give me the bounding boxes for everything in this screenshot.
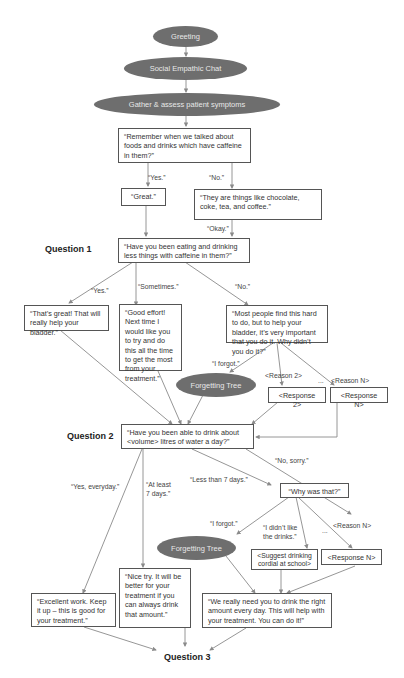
edge-label-ellipsis: ...: [318, 377, 324, 386]
gather-assess-symptoms-oval: Gather & assess patient symptoms: [94, 93, 280, 116]
edge-label-okay: “Okay.”: [207, 225, 229, 234]
edge-label-reason-2: <Reason 2>: [265, 372, 302, 381]
edge-label-ellipsis: ...: [322, 527, 328, 536]
great-box: “Great.”: [121, 188, 166, 206]
edge-label-at-least-7-days: “At least 7 days.”: [146, 481, 176, 498]
edge-label-less-than-7-days: “Less than 7 days.”: [190, 476, 248, 485]
edge-label-yes: “Yes.”: [148, 174, 166, 183]
thats-great-box: “That’s great! That will really help you…: [24, 305, 109, 331]
we-really-need-you-box: “We really need you to drink the right a…: [202, 593, 332, 628]
suggest-cordial-box: <Suggest drinking cordial at school>: [251, 549, 318, 570]
question-1-label: Question 1: [45, 244, 92, 254]
edge-label-i-forgot: “I forgot.”: [210, 520, 238, 529]
response-2-box: <Response 2>: [268, 387, 326, 403]
edge-label-reason-n: <Reason N>: [333, 522, 371, 531]
greeting-oval: Greeting: [153, 26, 218, 47]
edge-label-no: “No.”: [235, 283, 250, 292]
question-3-label: Question 3: [164, 652, 211, 662]
edge-label-reason-n: <Reason N>: [331, 377, 369, 386]
excellent-work-box: “Excellent work. Keep it up – this is go…: [31, 593, 116, 627]
response-n-box: <Response N>: [321, 549, 382, 565]
question-2-box: “Have you been able to drink about <volu…: [121, 424, 254, 449]
question-2-label: Question 2: [67, 431, 114, 441]
edge-label-sometimes: “Sometimes.”: [138, 283, 178, 292]
response-n-box: <Response N>: [330, 387, 388, 403]
edge-label-no: “No.”: [209, 174, 224, 183]
edge-label-yes: “Yes.”: [91, 287, 109, 296]
social-empathic-chat-oval: Social Empathic Chat: [124, 57, 247, 80]
why-was-that-box: “Why was that?”: [280, 483, 349, 498]
good-effort-box: “Good effort! Next time I would like you…: [119, 304, 182, 371]
most-people-box: “Most people find this hard to do, but t…: [226, 305, 328, 343]
edge-label-yes-everyday: “Yes, everyday.”: [71, 483, 119, 492]
question-1-box: “Have you been eating and drinking less …: [118, 238, 250, 263]
forgetting-tree-oval: Forgetting Tree: [157, 536, 236, 560]
edge-label-didnt-like-drinks: “I didn’t like the drinks.”: [263, 524, 308, 541]
forgetting-tree-oval: Forgetting Tree: [176, 373, 256, 397]
edge-label-no-sorry: “No, sorry.”: [275, 457, 308, 466]
edge-label-i-forgot: “I forgot.”: [212, 360, 240, 369]
caffeine-examples-box: “They are things like chocolate, coke, t…: [194, 189, 322, 220]
nice-try-box: “Nice try. It will be better for your tr…: [119, 568, 191, 628]
remember-caffeine-box: “Remember when we talked about foods and…: [118, 128, 251, 163]
